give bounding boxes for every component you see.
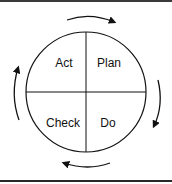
quadrant-label-act: Act [55,56,73,70]
quadrant-label-do: Do [100,116,116,130]
cycle-svg: Act Plan Do Check [0,0,172,184]
arrow-left-icon [14,68,19,120]
arrow-top-icon [67,16,114,22]
quadrant-label-plan: Plan [97,56,121,70]
arrow-right-icon [154,80,160,126]
pdca-cycle-diagram: Act Plan Do Check [0,0,172,184]
quadrant-label-check: Check [46,116,81,130]
arrow-bottom-icon [64,163,110,167]
